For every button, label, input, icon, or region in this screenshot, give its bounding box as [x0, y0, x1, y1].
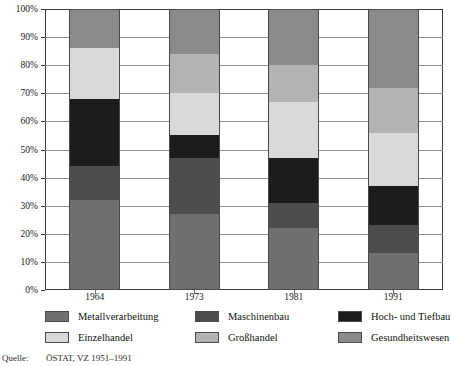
bar-segment [169, 54, 220, 93]
legend-swatch [338, 311, 362, 322]
chart-legend: MetallverarbeitungMaschinenbauHoch- und … [45, 310, 443, 354]
y-axis-tick-label: 0% [0, 285, 38, 295]
bar-stack [268, 9, 319, 290]
bar-segment [368, 9, 419, 88]
legend-label: Metallverarbeitung [78, 311, 158, 323]
legend-item[interactable]: Einzelhandel [45, 331, 133, 344]
x-axis-tick-mark [194, 290, 195, 294]
bar-segment [268, 158, 319, 203]
bar-segment [268, 102, 319, 158]
source-label: Quelle: [2, 353, 46, 363]
bar-stack [169, 9, 220, 290]
y-axis-tick-label: 10% [0, 257, 38, 267]
bar-segment [69, 166, 120, 200]
y-axis-tick-label: 60% [0, 116, 38, 126]
y-axis-tick-label: 30% [0, 201, 38, 211]
bar-segment [169, 135, 220, 157]
bar-segment [169, 93, 220, 135]
x-axis: 1964197319811991 [45, 292, 443, 308]
bar-segment [368, 225, 419, 253]
x-axis-tick-mark [393, 290, 394, 294]
bar-segment [169, 214, 220, 290]
stacked-bar-chart: 0%10%20%30%40%50%60%70%80%90%100% 196419… [0, 0, 451, 366]
bar-stack [368, 9, 419, 290]
x-axis-tick-mark [294, 290, 295, 294]
legend-swatch [195, 332, 219, 343]
bar-segment [69, 48, 120, 99]
legend-swatch [195, 311, 219, 322]
bar-segment [69, 200, 120, 290]
y-axis-tick-label: 90% [0, 32, 38, 42]
legend-label: Gesundheitswesen [371, 332, 449, 344]
y-axis-tick-label: 20% [0, 229, 38, 239]
y-axis-tick-label: 50% [0, 145, 38, 155]
legend-label: Großhandel [228, 332, 278, 344]
bar-segment [268, 228, 319, 290]
y-axis: 0%10%20%30%40%50%60%70%80%90%100% [0, 0, 45, 299]
bar-segment [368, 186, 419, 225]
bar-segment [368, 253, 419, 290]
bar-segment [268, 9, 319, 65]
legend-label: Hoch- und Tiefbau [371, 311, 450, 323]
y-axis-tick-label: 70% [0, 88, 38, 98]
y-axis-tick-label: 80% [0, 60, 38, 70]
legend-swatch [45, 311, 69, 322]
bar-segment [368, 88, 419, 133]
source-value: ÖSTAT, VZ 1951–1991 [46, 353, 132, 363]
legend-item[interactable]: Metallverarbeitung [45, 310, 158, 323]
bar-segment [69, 99, 120, 166]
legend-label: Einzelhandel [78, 332, 133, 344]
bar-segment [169, 9, 220, 54]
x-axis-tick-mark [95, 290, 96, 294]
legend-item[interactable]: Großhandel [195, 331, 278, 344]
y-axis-tick-label: 40% [0, 173, 38, 183]
bar-stack [69, 9, 120, 290]
legend-item[interactable]: Gesundheitswesen [338, 331, 449, 344]
legend-item[interactable]: Hoch- und Tiefbau [338, 310, 450, 323]
bar-segment [268, 203, 319, 228]
legend-item[interactable]: Maschinenbau [195, 310, 289, 323]
legend-label: Maschinenbau [228, 311, 289, 323]
bar-segment [69, 9, 120, 48]
bar-segment [268, 65, 319, 102]
bar-segment [368, 133, 419, 186]
plot-area [45, 9, 443, 290]
y-axis-tick-label: 100% [0, 4, 38, 14]
legend-swatch [45, 332, 69, 343]
legend-swatch [338, 332, 362, 343]
y-axis-tick-mark [41, 290, 45, 291]
bar-segment [169, 158, 220, 214]
source-note: Quelle:ÖSTAT, VZ 1951–1991 [2, 353, 132, 366]
